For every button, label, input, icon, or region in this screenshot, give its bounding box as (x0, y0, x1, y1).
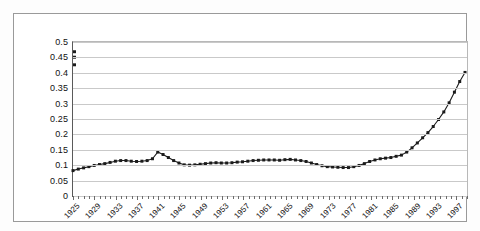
data-point-marker (299, 159, 302, 162)
data-point-marker (405, 151, 408, 154)
data-point-marker (156, 151, 159, 154)
x-axis-tick (78, 196, 79, 199)
x-axis-tick-label: 1977 (340, 202, 359, 221)
data-point-marker (241, 160, 244, 163)
data-point-marker (82, 166, 85, 169)
data-point-marker (268, 158, 271, 161)
data-point-marker (230, 161, 233, 164)
data-point-marker (151, 157, 154, 160)
x-axis-tick (361, 196, 362, 199)
data-point-marker (289, 158, 292, 161)
data-point-marker (458, 80, 461, 83)
x-axis-tick (281, 196, 282, 199)
gridline-y (73, 134, 467, 135)
data-point-marker (400, 154, 403, 157)
y-axis-tick-label: 0.1 (55, 161, 68, 170)
y-axis-tick-label: 0.2 (55, 130, 68, 139)
data-point-marker (342, 166, 345, 169)
x-axis-tick-major (179, 196, 180, 200)
data-point-marker (347, 166, 350, 169)
data-point-marker (225, 162, 228, 165)
x-axis-tick (84, 196, 85, 199)
y-axis-tick-label: 0.15 (50, 145, 68, 154)
data-point-marker (336, 166, 339, 169)
x-axis-tick (313, 196, 314, 199)
gridline-y (73, 88, 467, 89)
data-point-marker (130, 160, 133, 163)
x-axis-tick (142, 196, 143, 199)
x-axis-tick (270, 196, 271, 199)
y-axis-tick-label: 0.05 (50, 176, 68, 185)
data-point-marker (246, 160, 249, 163)
data-point-marker (442, 110, 445, 113)
x-axis-tick (302, 196, 303, 199)
data-point-marker (305, 160, 308, 163)
x-axis-tick-major (456, 196, 457, 200)
y-axis-tick-label: 0.4 (55, 68, 68, 77)
x-axis-tick-major (350, 196, 351, 200)
x-axis-tick (387, 196, 388, 199)
data-point-marker (146, 159, 149, 162)
data-point-marker (119, 159, 122, 162)
data-point-marker (421, 136, 424, 139)
gridline-y (73, 181, 467, 182)
gridline-y (73, 42, 467, 43)
y-axis-tick-label: 0.25 (50, 115, 68, 124)
x-axis-tick-major (243, 196, 244, 200)
x-axis-tick-major (435, 196, 436, 200)
data-point-marker (167, 156, 170, 159)
data-point-marker (257, 159, 260, 162)
data-point-marker (432, 125, 435, 128)
x-axis-tick-major (137, 196, 138, 200)
data-point-marker (124, 159, 127, 162)
x-axis-tick (467, 196, 468, 199)
x-axis-tick (419, 196, 420, 199)
x-axis-tick-major (371, 196, 372, 200)
data-point-marker (109, 161, 112, 164)
x-axis-tick (376, 196, 377, 199)
x-axis-tick (132, 196, 133, 199)
x-axis-tick (398, 196, 399, 199)
data-point-marker (72, 169, 75, 172)
chart-outer-frame: 00.050.10.150.20.250.30.350.40.450.51925… (13, 13, 467, 222)
x-axis-tick (297, 196, 298, 199)
x-axis-tick (238, 196, 239, 199)
x-axis-tick (323, 196, 324, 199)
series-polyline (73, 72, 465, 170)
x-axis-tick-label: 1989 (404, 202, 423, 221)
x-axis-tick (190, 196, 191, 199)
x-axis-tick (334, 196, 335, 199)
x-axis-tick-label: 1929 (84, 202, 103, 221)
x-axis-tick (148, 196, 149, 199)
x-axis-tick-label: 1961 (255, 202, 274, 221)
data-point-marker (379, 157, 382, 160)
x-axis-tick (355, 196, 356, 199)
x-axis-tick (206, 196, 207, 199)
data-point-marker (177, 162, 180, 165)
data-point-marker (215, 161, 218, 164)
x-axis-tick-major (94, 196, 95, 200)
data-point-marker (135, 160, 138, 163)
data-point-marker (114, 160, 117, 163)
x-axis-tick-major (116, 196, 117, 200)
data-point-marker (73, 50, 76, 53)
x-axis-tick (105, 196, 106, 199)
x-axis-tick (446, 196, 447, 199)
x-axis-tick (366, 196, 367, 199)
x-axis-tick (217, 196, 218, 199)
plot-area: 00.050.10.150.20.250.30.350.40.450.51925… (72, 41, 468, 197)
x-axis-tick-major (286, 196, 287, 200)
data-point-marker (262, 158, 265, 161)
x-axis-tick (451, 196, 452, 199)
x-axis-tick (318, 196, 319, 199)
x-axis-tick (440, 196, 441, 199)
data-point-marker (310, 162, 313, 165)
x-axis-tick (195, 196, 196, 199)
x-axis-tick (153, 196, 154, 199)
data-point-marker (294, 158, 297, 161)
data-point-marker (140, 160, 143, 163)
x-axis-tick-label: 1925 (63, 202, 82, 221)
gridline-y (73, 104, 467, 105)
y-axis-tick-label: 0.45 (50, 53, 68, 62)
gridline-y (73, 73, 467, 74)
